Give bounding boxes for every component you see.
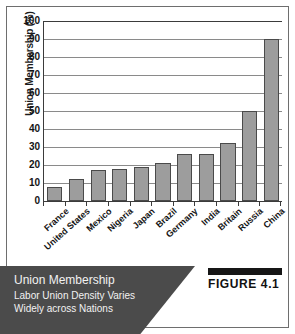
bar-slot — [109, 21, 131, 201]
figure-container: Union Membership (%) 1009080706050403020… — [0, 0, 295, 334]
x-axis-category-label: China — [261, 206, 286, 230]
y-axis-tick-label: 100 — [23, 16, 40, 26]
y-axis-tick-label: 50 — [29, 106, 40, 116]
y-axis-tick-label: 0 — [34, 196, 40, 206]
bar-slot — [87, 21, 109, 201]
y-axis-tick-labels: 1009080706050403020100 — [14, 16, 40, 201]
bar-series — [44, 21, 282, 201]
y-axis-tick-label: 90 — [29, 34, 40, 44]
y-axis-tick-label: 70 — [29, 70, 40, 80]
figure-badge: FIGURE 4.1 — [208, 268, 282, 291]
bar-slot — [260, 21, 282, 201]
bar — [199, 154, 214, 201]
caption-subtitle-line-1: Labor Union Density Varies — [14, 289, 184, 302]
bar-chart: Union Membership (%) 1009080706050403020… — [0, 0, 295, 262]
x-axis-category-label: Japan — [131, 206, 157, 231]
x-axis-category-labels: FranceUnited StatesMexicoNigeriaJapanBra… — [43, 206, 281, 260]
bar-slot — [152, 21, 174, 201]
plot-area — [43, 21, 282, 202]
caption-title: Union Membership — [14, 272, 184, 288]
bar-slot — [239, 21, 261, 201]
bar — [155, 163, 170, 201]
caption-subtitle-line-2: Widely across Nations — [14, 302, 184, 315]
bar-slot — [174, 21, 196, 201]
caption-text-group: Union Membership Labor Union Density Var… — [14, 272, 184, 315]
y-axis-tick-label: 20 — [29, 160, 40, 170]
y-axis-tick-label: 40 — [29, 124, 40, 134]
bar-slot — [195, 21, 217, 201]
bar — [220, 143, 235, 201]
y-axis-tick-label: 80 — [29, 52, 40, 62]
bar — [264, 39, 279, 201]
bar-slot — [217, 21, 239, 201]
bar-slot — [44, 21, 66, 201]
y-axis-tick-label: 60 — [29, 88, 40, 98]
bar-slot — [66, 21, 88, 201]
figure-rule-bar — [208, 268, 282, 275]
bar — [112, 169, 127, 201]
bar — [91, 170, 106, 201]
bar-slot — [131, 21, 153, 201]
bar — [177, 154, 192, 201]
bar — [134, 167, 149, 201]
figure-number-label: FIGURE 4.1 — [208, 277, 282, 291]
bar — [69, 179, 84, 201]
y-axis-tick-label: 10 — [29, 178, 40, 188]
y-axis-tick-label: 30 — [29, 142, 40, 152]
bar — [242, 111, 257, 201]
bar — [47, 187, 62, 201]
